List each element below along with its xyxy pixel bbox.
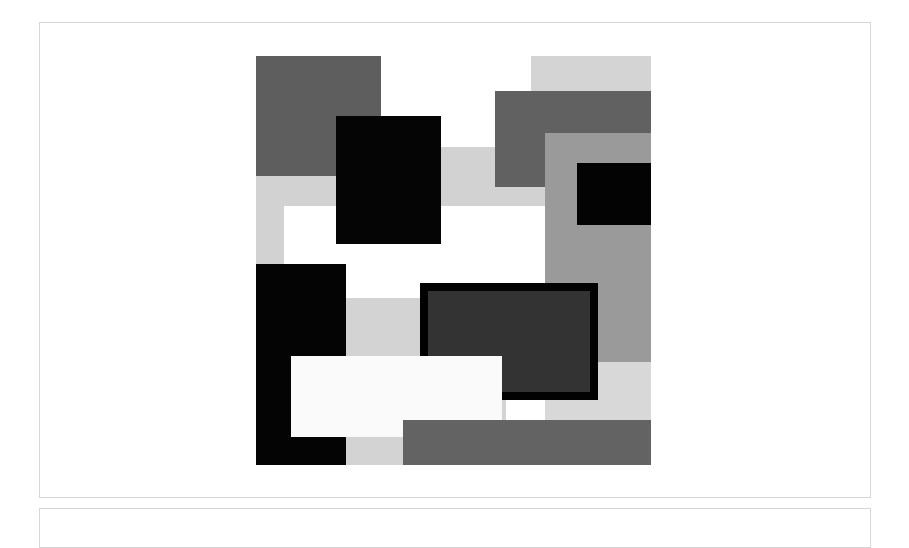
light-top-right: [531, 56, 651, 96]
secondary-panel: [39, 508, 871, 548]
black-rect-right: [577, 163, 651, 225]
dark-gray-bottom-bar: [403, 420, 651, 465]
abstract-artwork: [256, 56, 651, 465]
black-square-top: [336, 116, 441, 244]
